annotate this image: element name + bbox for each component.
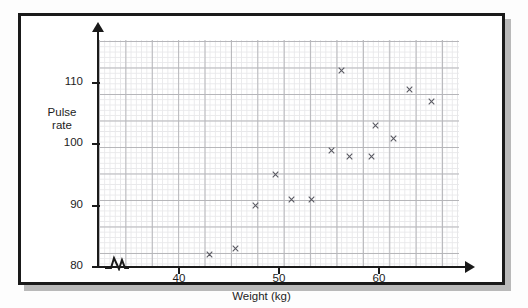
y-tick-mark	[92, 143, 100, 145]
y-axis-arrow-icon	[92, 22, 104, 32]
x-axis-arrow-icon	[465, 261, 475, 273]
y-tick-mark	[92, 205, 100, 207]
data-point-marker	[346, 153, 353, 160]
x-tick-label: 40	[159, 272, 199, 284]
grid-major	[99, 40, 459, 267]
data-point-marker	[368, 153, 375, 160]
y-tick-label: 80	[35, 259, 83, 271]
y-tick-label: 110	[35, 75, 83, 87]
y-axis-title: Pulse rate	[33, 106, 91, 132]
page-background: 8090100110 405060 Pulse rate Weight (kg)	[0, 0, 528, 308]
y-tick-label: 90	[35, 198, 83, 210]
data-point-marker	[428, 98, 435, 105]
data-point-marker	[232, 245, 239, 252]
data-point-marker	[288, 196, 295, 203]
y-axis-title-line-1: Pulse	[33, 106, 91, 119]
data-point-marker	[308, 196, 315, 203]
data-point-marker	[328, 147, 335, 154]
x-tick-label: 60	[359, 272, 399, 284]
axis-break-icon	[105, 255, 129, 271]
data-point-marker	[252, 202, 259, 209]
y-axis-line	[97, 30, 99, 268]
data-point-marker	[338, 67, 345, 74]
data-point-marker	[206, 251, 213, 258]
plot-area	[99, 40, 459, 267]
data-point-marker	[390, 135, 397, 142]
data-point-marker	[406, 86, 413, 93]
y-tick-mark	[92, 82, 100, 84]
x-tick-label: 50	[259, 272, 299, 284]
x-axis-line	[93, 266, 467, 268]
figure-frame: 8090100110 405060 Pulse rate Weight (kg)	[18, 13, 505, 285]
data-point-marker	[372, 122, 379, 129]
y-tick-mark	[92, 266, 100, 268]
data-point-marker	[272, 171, 279, 178]
y-axis-title-line-2: rate	[33, 119, 91, 132]
x-axis-title: Weight (kg)	[21, 290, 502, 302]
y-tick-label: 100	[35, 136, 83, 148]
